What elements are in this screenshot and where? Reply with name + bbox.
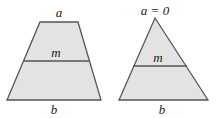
- triangle-bottom-label: b: [159, 102, 166, 117]
- triangle: a = 0 m b: [119, 3, 208, 117]
- triangle-mid-label: m: [153, 50, 162, 65]
- figure-canvas: a m b a = 0 m b: [0, 0, 219, 118]
- triangle-top-label: a = 0: [141, 3, 170, 18]
- trapezoid: a m b: [7, 5, 101, 117]
- trapezoid-bottom-label: b: [51, 102, 58, 117]
- trapezoid-top-label: a: [56, 5, 63, 20]
- trapezoid-mid-label: m: [51, 45, 60, 60]
- triangle-shape: [119, 18, 208, 100]
